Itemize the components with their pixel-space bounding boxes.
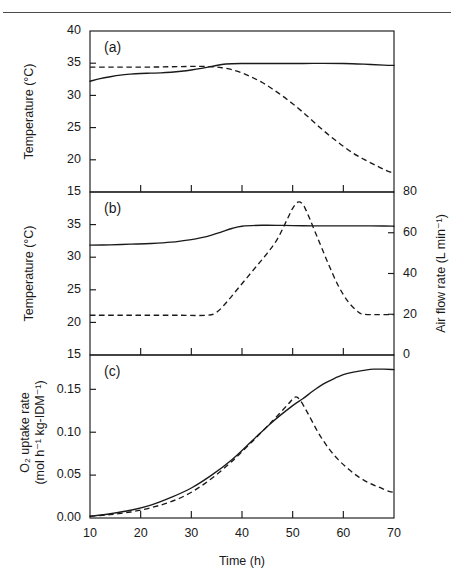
- panel-b: 1520253035020406080(b)Temperature (°C)Ai…: [22, 184, 448, 361]
- y-tick-label: 20: [67, 315, 81, 329]
- y-axis-title-line1: O₂ uptake rate: [18, 392, 32, 473]
- y-tick-label: 30: [67, 249, 81, 263]
- series-dashed: [90, 397, 394, 516]
- x-axis-title: Time (h): [219, 554, 265, 568]
- x-tick-label: 50: [286, 526, 300, 540]
- y-axis-title: Temperature (°C): [22, 226, 36, 322]
- y2-tick-label: 0: [403, 347, 410, 361]
- y-tick-label: 20: [67, 152, 81, 166]
- y-tick-label: 35: [67, 217, 81, 231]
- series-solid: [90, 225, 394, 245]
- x-tick-label: 10: [83, 526, 97, 540]
- x-tick-label: 60: [336, 526, 350, 540]
- panel-frame: [90, 31, 394, 192]
- x-tick-label: 40: [235, 526, 249, 540]
- multi-panel-chart: 152025303540(a)Temperature (°C)152025303…: [0, 0, 454, 584]
- y-tick-label: 35: [67, 55, 81, 69]
- y-tick-label: 15: [67, 347, 81, 361]
- y2-tick-label: 40: [403, 266, 417, 280]
- y-tick-label: 40: [67, 23, 81, 37]
- y2-tick-label: 60: [403, 225, 417, 239]
- y2-tick-label: 80: [403, 184, 417, 198]
- y-tick-label: 0.10: [57, 425, 81, 439]
- header-divider-rule: [3, 12, 451, 13]
- panel-frame: [90, 355, 394, 518]
- y-axis-title: Temperature (°C): [22, 64, 36, 160]
- y-axis-title-line2: (mol h⁻¹ kg-IDM⁻¹): [33, 380, 47, 484]
- y-tick-label: 25: [67, 120, 81, 134]
- panel-a: 152025303540(a)Temperature (°C): [22, 23, 394, 198]
- series-dashed: [90, 66, 394, 173]
- x-tick-label: 70: [387, 526, 401, 540]
- panel-tag: (a): [104, 39, 121, 55]
- panel-tag: (b): [104, 200, 121, 216]
- y2-tick-label: 20: [403, 307, 417, 321]
- x-tick-label: 20: [134, 526, 148, 540]
- y-tick-label: 15: [67, 184, 81, 198]
- series-solid: [90, 63, 394, 81]
- x-tick-label: 30: [184, 526, 198, 540]
- y-tick-label: 0.05: [57, 467, 81, 481]
- panel-tag: (c): [104, 363, 120, 379]
- y-tick-label: 25: [67, 282, 81, 296]
- series-solid: [90, 369, 394, 516]
- panel-frame: [90, 192, 394, 355]
- y2-axis-title: Air flow rate (L min⁻¹): [434, 214, 448, 333]
- y-tick-label: 30: [67, 88, 81, 102]
- figure-container: 152025303540(a)Temperature (°C)152025303…: [0, 0, 454, 584]
- panel-c: 0.000.050.100.1510203040506070(c)O₂ upta…: [18, 355, 401, 540]
- y-tick-label: 0.15: [57, 382, 81, 396]
- y-tick-label: 0.00: [57, 510, 81, 524]
- series-dashed: [90, 202, 394, 316]
